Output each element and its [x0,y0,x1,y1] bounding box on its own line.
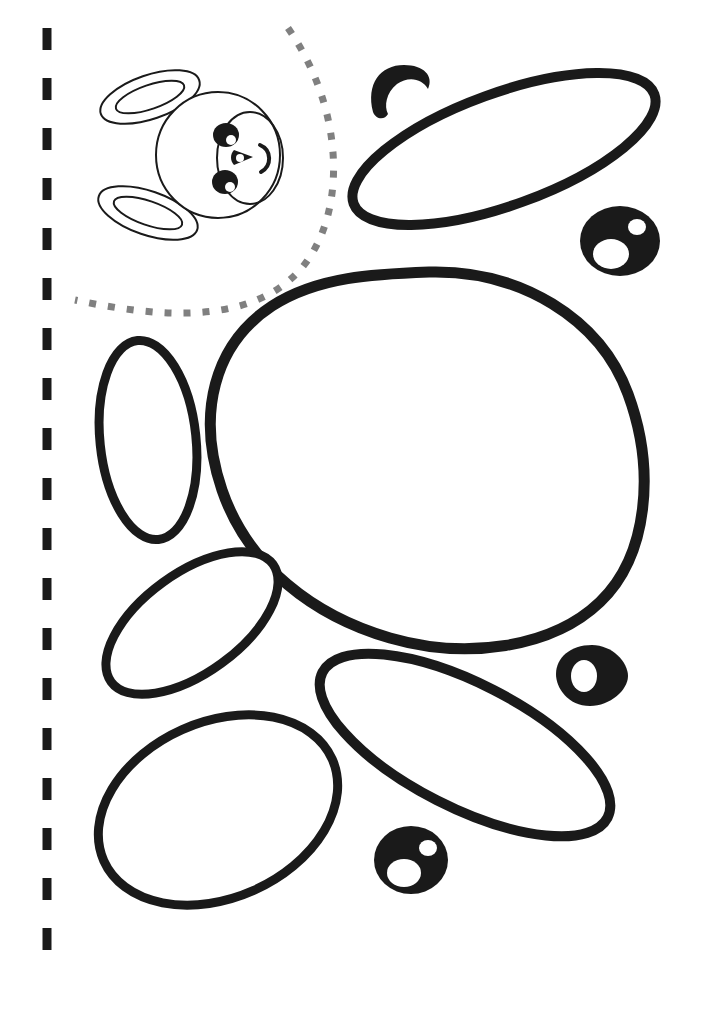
paw-hole-large-top-right [593,239,629,269]
bunny-eye-top-highlight [226,135,236,145]
black-paw-top-right[interactable] [580,206,660,276]
craft-template-page: Bunny Craft Cut-Out Template Black and w… [0,0,722,1023]
paw-hole-small-top-right [628,219,646,235]
bunny-eye-top [213,123,239,147]
paw-hole-large-bottom [387,859,421,887]
template-canvas [0,0,722,1023]
teardrop-hole-right [571,660,597,692]
bunny-nose-highlight [236,154,244,162]
bunny-eye-top-pupil [213,123,239,147]
black-paw-bottom[interactable] [374,826,448,894]
bunny-eye-bottom-pupil [212,170,238,194]
bunny-eye-bottom-highlight [225,182,235,192]
paw-hole-small-bottom [419,840,437,856]
bunny-eye-bottom [212,170,238,194]
